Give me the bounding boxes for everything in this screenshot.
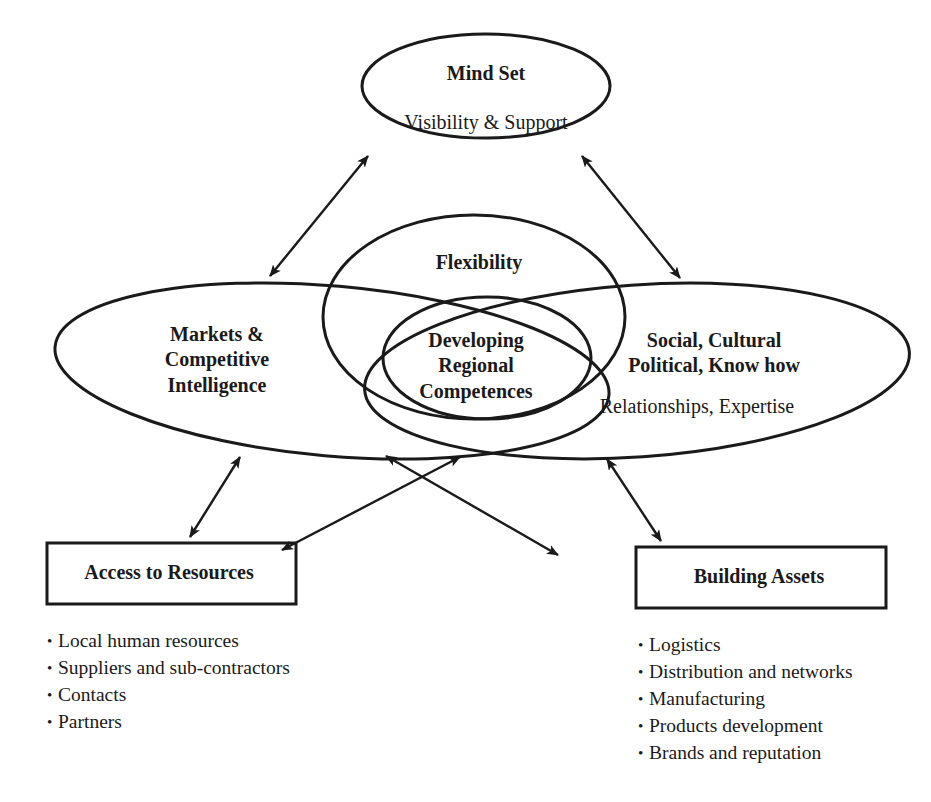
building-node: Building Assets [636, 547, 886, 608]
arrow-markets-building [386, 456, 558, 555]
building-assets-list: Logistics Distribution and networks Manu… [638, 632, 853, 767]
markets-line3: Intelligence [168, 374, 267, 397]
access-resources-list: Local human resources Suppliers and sub-… [47, 628, 290, 736]
developing-node: Developing Regional Competences [383, 297, 591, 419]
flexibility-title: Flexibility [436, 251, 523, 274]
markets-line2: Competitive [165, 348, 270, 371]
social-line2: Political, Know how [628, 354, 800, 376]
list-item: Local human resources [47, 628, 290, 655]
list-item: Manufacturing [638, 686, 853, 713]
social-line1: Social, Cultural [647, 329, 782, 351]
list-item: Products development [638, 713, 853, 740]
list-item: Partners [47, 709, 290, 736]
arrow-social-access [282, 457, 460, 550]
arrow-mindset-social [582, 156, 680, 278]
developing-line2: Regional [438, 354, 514, 377]
markets-node: Markets & Competitive Intelligence [48, 262, 617, 480]
list-item: Brands and reputation [638, 740, 853, 767]
list-item: Contacts [47, 682, 290, 709]
developing-line1: Developing [428, 329, 524, 352]
mind-set-subtitle: Visibility & Support [404, 111, 568, 134]
access-node: Access to Resources [47, 543, 296, 604]
mind-set-title: Mind Set [447, 62, 526, 84]
arrow-markets-access [190, 457, 240, 537]
access-title: Access to Resources [84, 561, 254, 583]
developing-line3: Competences [419, 380, 533, 403]
social-subtitle: Relationships, Expertise [600, 395, 795, 418]
building-title: Building Assets [694, 565, 825, 588]
arrow-social-building [607, 459, 661, 541]
markets-line1: Markets & [170, 323, 264, 345]
list-item: Suppliers and sub-contractors [47, 655, 290, 682]
list-item: Logistics [638, 632, 853, 659]
mind-set-node: Mind Set Visibility & Support [362, 34, 610, 138]
arrow-mindset-markets [270, 156, 368, 276]
markets-ellipse [48, 262, 617, 480]
list-item: Distribution and networks [638, 659, 853, 686]
